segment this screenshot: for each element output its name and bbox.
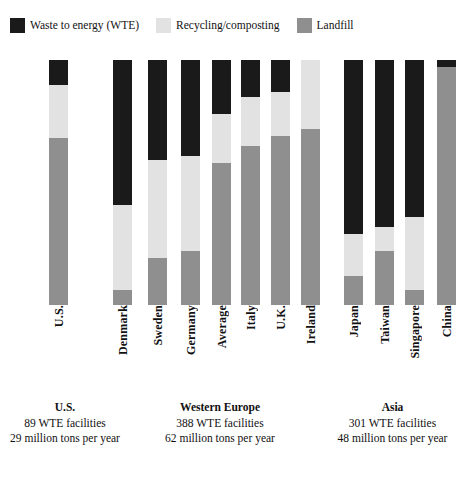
caption-western-europe: Western Europe388 WTE facilities62 milli… xyxy=(130,400,310,447)
x-label-germany: Germany xyxy=(175,305,206,393)
caption-u-s: U.S.89 WTE facilities29 million tons per… xyxy=(10,400,120,447)
bar-sweden xyxy=(148,60,167,305)
x-label-japan: Japan xyxy=(338,305,369,393)
segment-wte xyxy=(344,60,363,234)
x-label-china: China xyxy=(431,305,462,393)
x-label-text: Taiwan xyxy=(379,305,391,344)
bar-china xyxy=(437,60,456,305)
x-label-text: Ireland xyxy=(305,305,317,344)
segment-wte xyxy=(405,60,424,217)
legend-swatch-landfill-icon xyxy=(297,18,312,33)
segment-landfill xyxy=(148,258,167,305)
caption-asia: Asia301 WTE facilities48 million tons pe… xyxy=(320,400,465,447)
caption-tons: 62 million tons per year xyxy=(130,431,310,447)
group-captions: U.S.89 WTE facilities29 million tons per… xyxy=(0,400,469,483)
segment-wte xyxy=(212,60,231,114)
bar-italy xyxy=(241,60,260,305)
x-label-text: U.S. xyxy=(53,305,65,327)
segment-landfill xyxy=(49,138,68,305)
caption-title: Asia xyxy=(320,400,465,416)
segment-recycling xyxy=(212,114,231,163)
legend-item-recycling: Recycling/composting xyxy=(156,18,279,33)
x-label-text: Sweden xyxy=(152,305,164,346)
segment-recycling xyxy=(301,60,320,129)
bar-germany xyxy=(181,60,200,305)
legend-item-wte: Waste to energy (WTE) xyxy=(10,18,139,33)
segment-recycling xyxy=(113,205,132,291)
caption-title: U.S. xyxy=(10,400,120,416)
bar-japan xyxy=(344,60,363,305)
segment-landfill xyxy=(181,251,200,305)
legend-label-landfill: Landfill xyxy=(317,20,354,32)
segment-wte xyxy=(375,60,394,227)
segment-recycling xyxy=(241,97,260,146)
x-label-text: Germany xyxy=(185,305,197,355)
segment-landfill xyxy=(375,251,394,305)
bar-singapore xyxy=(405,60,424,305)
bar-taiwan xyxy=(375,60,394,305)
chart-legend: Waste to energy (WTE) Recycling/composti… xyxy=(10,18,354,33)
caption-tons: 29 million tons per year xyxy=(10,431,120,447)
legend-label-wte: Waste to energy (WTE) xyxy=(30,20,139,32)
segment-recycling xyxy=(181,156,200,252)
segment-recycling xyxy=(375,227,394,252)
x-label-u-k: U.K. xyxy=(265,305,296,393)
caption-facilities: 89 WTE facilities xyxy=(10,416,120,432)
x-label-italy: Italy xyxy=(235,305,266,393)
x-label-ireland: Ireland xyxy=(295,305,326,393)
x-label-sweden: Sweden xyxy=(142,305,173,393)
bar-u-s xyxy=(49,60,68,305)
waste-treatment-stacked-bar-chart: Waste to energy (WTE) Recycling/composti… xyxy=(0,0,469,483)
segment-wte xyxy=(148,60,167,160)
x-label-text: Japan xyxy=(348,305,360,337)
plot-area xyxy=(0,60,469,305)
segment-landfill xyxy=(344,276,363,305)
segment-landfill xyxy=(271,136,290,305)
segment-recycling xyxy=(405,217,424,291)
segment-wte xyxy=(181,60,200,156)
x-label-text: Denmark xyxy=(117,305,129,355)
x-label-singapore: Singapore xyxy=(399,305,430,393)
x-label-text: Singapore xyxy=(409,305,421,359)
segment-landfill xyxy=(405,290,424,305)
segment-landfill xyxy=(212,163,231,305)
caption-facilities: 301 WTE facilities xyxy=(320,416,465,432)
x-label-text: Italy xyxy=(245,305,257,330)
bar-average xyxy=(212,60,231,305)
segment-wte xyxy=(271,60,290,92)
legend-swatch-wte-icon xyxy=(10,18,25,33)
segment-recycling xyxy=(49,85,68,139)
bar-ireland xyxy=(301,60,320,305)
segment-wte xyxy=(49,60,68,85)
segment-landfill xyxy=(241,146,260,305)
bar-denmark xyxy=(113,60,132,305)
segment-wte xyxy=(113,60,132,205)
segment-recycling xyxy=(148,160,167,258)
caption-tons: 48 million tons per year xyxy=(320,431,465,447)
x-label-text: China xyxy=(441,305,453,337)
bar-u-k xyxy=(271,60,290,305)
legend-item-landfill: Landfill xyxy=(297,18,354,33)
x-axis-category-labels: U.S.DenmarkSwedenGermanyAverageItalyU.K.… xyxy=(0,305,469,395)
segment-landfill xyxy=(113,290,132,305)
segment-wte xyxy=(241,60,260,97)
legend-label-recycling: Recycling/composting xyxy=(176,20,279,32)
x-label-denmark: Denmark xyxy=(107,305,138,393)
x-label-text: Average xyxy=(216,305,228,348)
legend-swatch-recycling-icon xyxy=(156,18,171,33)
caption-title: Western Europe xyxy=(130,400,310,416)
x-label-average: Average xyxy=(206,305,237,393)
caption-facilities: 388 WTE facilities xyxy=(130,416,310,432)
segment-recycling xyxy=(344,234,363,276)
segment-landfill xyxy=(301,129,320,305)
x-label-text: U.K. xyxy=(275,305,287,330)
x-label-u-s: U.S. xyxy=(43,305,74,393)
x-label-taiwan: Taiwan xyxy=(369,305,400,393)
segment-landfill xyxy=(437,67,456,305)
segment-recycling xyxy=(271,92,290,136)
segment-wte xyxy=(437,60,456,67)
